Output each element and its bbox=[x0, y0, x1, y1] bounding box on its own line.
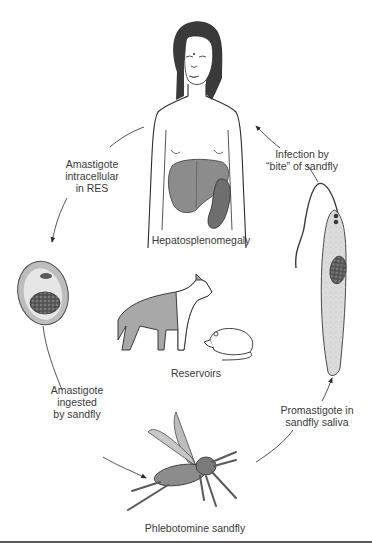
label-infection-by-bite: Infection by “bite” of sandfly bbox=[256, 148, 348, 172]
bottom-divider bbox=[0, 541, 372, 543]
leishmania-life-cycle-diagram: Amastigote intracellular in RES Infectio… bbox=[0, 0, 372, 548]
diagram-artwork bbox=[0, 0, 372, 548]
phlebotomine-sandfly bbox=[128, 412, 236, 510]
label-amastigote-ingested: Amastigote ingested by sandfly bbox=[42, 384, 112, 420]
reservoir-animals bbox=[118, 274, 253, 360]
human-figure bbox=[148, 21, 246, 248]
promastigote bbox=[296, 183, 348, 375]
label-promastigote-in-saliva: Promastigote in sandfly saliva bbox=[270, 404, 364, 428]
amastigote-macrophage-cell bbox=[12, 257, 74, 330]
label-reservoirs: Reservoirs bbox=[156, 367, 236, 379]
label-amastigote-intracellular: Amastigote intracellular in RES bbox=[44, 158, 140, 194]
label-phlebotomine-sandfly: Phlebotomine sandfly bbox=[130, 522, 260, 534]
label-hepatosplenomegaly: Hepatosplenomegaly bbox=[146, 234, 256, 246]
